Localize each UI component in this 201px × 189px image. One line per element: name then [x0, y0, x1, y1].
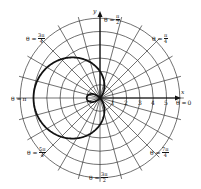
angle-label-5pi-over-4: θ = 5π4 [27, 147, 46, 158]
angle-label-pi: θ = π [11, 96, 27, 102]
angle-label-pi-over-2: θ = π2 [104, 14, 120, 25]
y-axis-label: y [93, 8, 96, 14]
y-axis-arrow-icon [98, 11, 103, 17]
angle-label-7pi-over-4: θ = 7π4 [150, 147, 169, 158]
radial-tick-4: 4 [151, 100, 155, 106]
radial-tick-2: 2 [124, 100, 128, 106]
angle-label-3pi-over-2: θ = 3π2 [89, 172, 108, 183]
x-axis-label: x [181, 89, 184, 95]
angle-label-3pi-over-4: θ = 3π4 [26, 33, 45, 44]
radial-tick-5: 5 [164, 100, 168, 106]
angle-label-pi-over-4: θ = π4 [152, 33, 168, 44]
angle-label-0: θ = 0 [176, 100, 191, 106]
axes [100, 14, 178, 98]
radial-tick-3: 3 [138, 100, 142, 106]
polar-plot [0, 0, 201, 189]
radial-tick-1: 1 [111, 100, 115, 106]
